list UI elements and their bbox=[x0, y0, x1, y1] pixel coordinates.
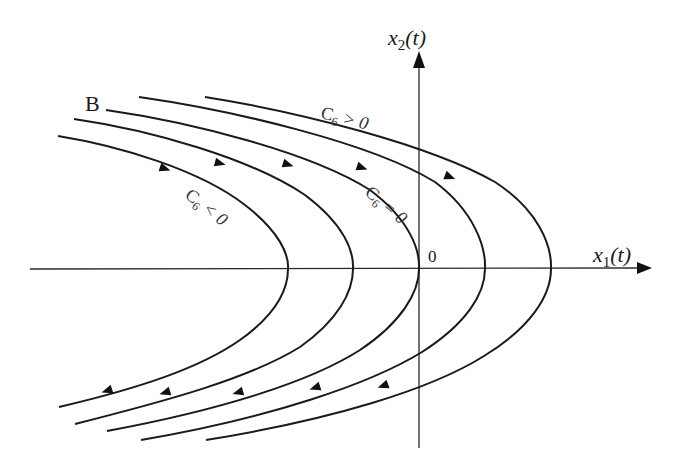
phase-portrait-diagram: x2(t) x1(t) 0 B C6 > 0 C6 = 0 C6 < 0 bbox=[0, 0, 673, 471]
flow-arrow-icon bbox=[376, 380, 389, 392]
trajectory-c-zero-B bbox=[106, 110, 419, 431]
flow-arrow-icon bbox=[308, 382, 321, 394]
x1-axis bbox=[30, 268, 640, 269]
trajectory-c-neg-2 bbox=[58, 136, 288, 407]
trajectory-c-neg-1 bbox=[74, 119, 353, 424]
flow-arrow-icon bbox=[356, 162, 369, 174]
x2-axis-arrow-icon bbox=[413, 51, 425, 68]
flow-arrows-lower bbox=[100, 380, 389, 399]
point-B-label: B bbox=[85, 91, 100, 116]
x1-axis-arrow-icon bbox=[637, 262, 652, 274]
c6-positive-label: C6 > 0 bbox=[318, 102, 370, 136]
x2-axis-label: x2(t) bbox=[387, 25, 426, 53]
flow-arrow-icon bbox=[282, 159, 295, 171]
flow-arrow-icon bbox=[158, 387, 171, 399]
flow-arrow-icon bbox=[231, 387, 244, 399]
flow-arrow-icon bbox=[214, 158, 227, 170]
x1-axis-label: x1(t) bbox=[592, 242, 631, 270]
flow-arrow-icon bbox=[443, 171, 457, 183]
origin-label: 0 bbox=[428, 247, 437, 266]
